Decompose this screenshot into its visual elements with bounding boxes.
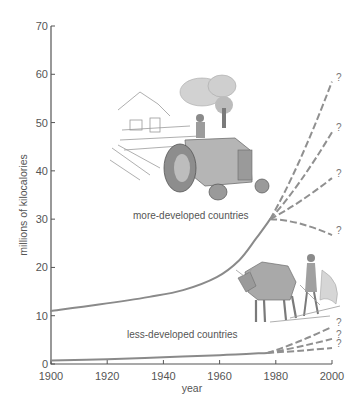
y-axis-label: millions of kilocalories [17, 154, 29, 256]
axes: 010203040506070190019201940196019802000 [36, 20, 344, 382]
y-tick-label: 20 [36, 261, 48, 273]
projection-line [270, 132, 332, 219]
question-mark: ? [336, 72, 342, 83]
projection-line [270, 82, 332, 220]
y-tick-label: 30 [36, 213, 48, 225]
annotation-more-developed: more-developed countries [133, 210, 249, 221]
ox-plough-illustration [236, 254, 340, 322]
question-mark: ? [336, 225, 342, 236]
y-tick-label: 50 [36, 117, 48, 129]
y-tick-label: 70 [36, 20, 48, 32]
question-mark: ? [336, 338, 342, 349]
x-tick-label: 1940 [151, 370, 175, 382]
y-tick-label: 0 [42, 358, 48, 370]
x-tick-label: 1900 [39, 370, 63, 382]
energy-chart: 010203040506070190019201940196019802000 … [0, 0, 361, 415]
question-mark: ? [336, 317, 342, 328]
series-line [51, 219, 270, 311]
projection-line [270, 219, 332, 235]
x-tick-label: 1920 [95, 370, 119, 382]
y-tick-label: 40 [36, 165, 48, 177]
x-tick-label: 1980 [264, 370, 288, 382]
projection-line [270, 178, 332, 219]
series-line [51, 353, 267, 361]
x-tick-label: 1960 [207, 370, 231, 382]
question-mark: ? [336, 122, 342, 133]
y-tick-label: 10 [36, 310, 48, 322]
x-tick-label: 2000 [320, 370, 344, 382]
y-tick-label: 60 [36, 68, 48, 80]
x-axis-label: year [182, 382, 203, 394]
annotation-less-developed: less-developed countries [127, 329, 238, 340]
question-mark: ? [336, 168, 342, 179]
tractor-illustration [110, 75, 269, 200]
